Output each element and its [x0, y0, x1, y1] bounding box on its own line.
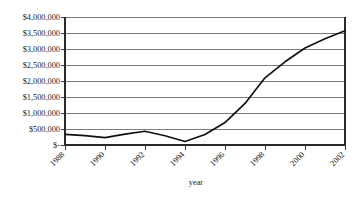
y-tick-label: $1,500,000: [23, 93, 60, 102]
y-tick-label: $3,500,000: [23, 29, 60, 38]
y-tick-label: $500,000: [29, 125, 60, 134]
x-tick-label: 1996: [208, 150, 226, 168]
y-tick-label: $2,500,000: [23, 61, 60, 70]
y-tick-label: $1,000,000: [23, 109, 60, 118]
x-tick-label: 2000: [288, 150, 306, 168]
y-tick-label: $2,000,000: [23, 77, 60, 86]
x-tick-label: 2002: [328, 150, 346, 168]
x-axis-tick-labels: 1988 1990 1992 1994 1996 1998 2000 2002: [48, 149, 346, 168]
gridlines: [65, 17, 345, 129]
x-axis-tickmarks: [65, 145, 345, 150]
y-axis-tickmarks: [61, 17, 65, 145]
x-tick-label: 1994: [168, 149, 187, 168]
x-tick-label: 1990: [88, 150, 106, 168]
x-tick-label: 1992: [128, 150, 146, 168]
y-tick-label: $4,000,000: [23, 13, 60, 22]
x-tick-label: 1998: [248, 150, 266, 168]
x-tick-label: 1988: [48, 150, 66, 168]
data-series-line: [65, 31, 345, 142]
y-tick-label: $3,000,000: [23, 45, 60, 54]
y-axis-tick-labels: $4,000,000 $3,500,000 $3,000,000 $2,500,…: [23, 13, 61, 150]
chart-canvas: $4,000,000 $3,500,000 $3,000,000 $2,500,…: [0, 0, 362, 203]
x-axis-title: year: [189, 178, 204, 187]
line-chart: $4,000,000 $3,500,000 $3,000,000 $2,500,…: [0, 0, 362, 203]
y-tick-label: $-: [53, 141, 60, 150]
